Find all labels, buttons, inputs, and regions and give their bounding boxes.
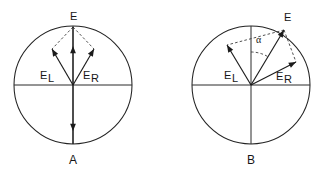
- panel-caption-b: B: [247, 153, 255, 167]
- arrowhead-icon: [52, 49, 58, 57]
- arrowhead-icon: [70, 46, 76, 53]
- arrowhead-icon: [288, 62, 296, 68]
- label-E_L: EL: [224, 69, 238, 84]
- arrowhead-icon: [88, 49, 94, 57]
- vector-A-axis-down: [70, 85, 76, 144]
- label-E_R: ER: [276, 70, 292, 85]
- label-sub-E_L: L: [48, 72, 54, 84]
- label-alpha: α: [256, 34, 262, 45]
- label-E_L: EL: [40, 69, 54, 84]
- vector-E_L: [52, 49, 73, 85]
- dash-E-to-ER: [284, 30, 296, 62]
- panel-b: EELERαB: [192, 11, 310, 167]
- arrowhead-icon: [70, 124, 76, 131]
- label-E: E: [284, 11, 291, 23]
- panel-caption-a: A: [69, 153, 77, 167]
- diagram-canvas: EELERAEELERαB: [0, 0, 328, 176]
- label-E_R: ER: [83, 69, 99, 84]
- panels-group: EELERAEELERαB: [14, 10, 310, 167]
- vector-E: [70, 27, 76, 85]
- label-sub-E_R: R: [284, 73, 292, 85]
- dash-E-to-EL: [52, 27, 73, 49]
- panel-a: EELERA: [14, 10, 132, 167]
- arrowhead-icon: [227, 45, 233, 53]
- label-sub-E_R: R: [91, 72, 99, 84]
- label-sub-E_L: L: [232, 72, 238, 84]
- label-E: E: [70, 10, 77, 22]
- dash-E-to-ER: [73, 27, 94, 49]
- alpha-arc: [251, 52, 268, 57]
- figure-root: EELERAEELERαB: [0, 0, 328, 176]
